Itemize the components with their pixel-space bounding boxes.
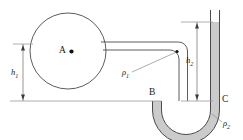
manometer-fluid-rho2 xyxy=(153,22,220,140)
label-rho2-subscript: 2 xyxy=(227,124,230,130)
tank-circle xyxy=(30,13,106,89)
label-point-c: C xyxy=(222,95,228,105)
rho1-leader xyxy=(132,50,179,72)
label-h1: h1 xyxy=(11,68,18,79)
label-h2-subscript: 2 xyxy=(190,61,193,67)
h2-dimension-line xyxy=(195,22,199,101)
manometer-figure: A B C h1 h2 ρ1 ρ2 xyxy=(0,0,243,140)
u-tube-inner-wall xyxy=(162,10,211,135)
pipe-inner-wall xyxy=(103,50,179,101)
label-rho1: ρ1 xyxy=(122,68,129,79)
label-h2: h2 xyxy=(186,56,193,67)
point-a-dot xyxy=(69,49,73,53)
label-rho2: ρ2 xyxy=(223,119,230,130)
label-point-b: B xyxy=(149,88,155,98)
h1-dimension-line xyxy=(21,44,25,101)
label-rho1-subscript: 1 xyxy=(126,73,129,79)
label-point-a: A xyxy=(59,46,66,56)
label-h1-subscript: 1 xyxy=(15,73,18,79)
